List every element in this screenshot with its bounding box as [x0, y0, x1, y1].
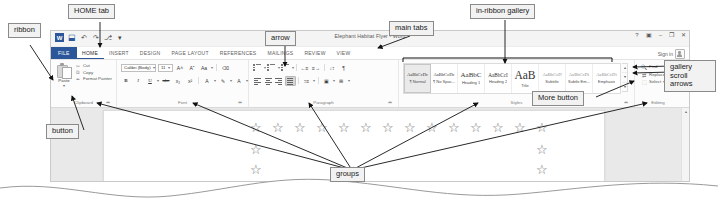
increase-indent-button[interactable]: ≡→ — [311, 64, 321, 72]
format-painter-button[interactable]: ✒ Format Painter — [75, 77, 112, 82]
star-icon: ☆ — [272, 121, 284, 134]
style-name: Subtle Em... — [568, 79, 590, 84]
tab-view[interactable]: VIEW — [331, 47, 356, 59]
copy-button[interactable]: ⧉ Copy — [75, 70, 112, 75]
group-styles: AaBbCcDc ¶ Normal AaBbCcDc ¶ No Spac... … — [399, 60, 635, 107]
chevron-down-icon[interactable]: ▾ — [168, 65, 170, 70]
styles-gallery[interactable]: AaBbCcDc ¶ Normal AaBbCcDc ¶ No Spac... … — [403, 63, 621, 94]
sort-button[interactable]: ↓↕ — [327, 64, 337, 72]
paste-button[interactable]: Paste ▾ — [55, 62, 73, 88]
callout-button: button — [46, 124, 79, 139]
change-case-button[interactable]: Aa — [199, 64, 209, 72]
style-item-normal[interactable]: AaBbCcDc ¶ Normal — [404, 64, 431, 93]
style-item-subtitle[interactable]: AaBbCcD Subtitle — [539, 64, 566, 93]
close-button[interactable]: ✕ — [681, 32, 686, 38]
chevron-down-icon[interactable]: ▾ — [153, 65, 155, 70]
help-button[interactable]: ? — [635, 32, 638, 38]
chevron-down-icon[interactable]: ▾ — [211, 66, 213, 70]
decrease-indent-button[interactable]: ←≡ — [300, 64, 310, 72]
font-name-combobox[interactable]: Calibri (Body) ▾ — [121, 64, 156, 72]
document-scrollbar[interactable]: ▴ ▾ — [681, 108, 689, 182]
ribbon-display-options-button[interactable]: ▣ — [646, 32, 652, 38]
find-button[interactable]: 🔍 Find — [641, 65, 665, 70]
window-controls[interactable]: ? ▣ – ❐ ✕ — [635, 32, 686, 38]
tab-insert[interactable]: INSERT — [104, 47, 135, 59]
tab-design[interactable]: DESIGN — [134, 47, 166, 59]
tab-mailings[interactable]: MAILINGS — [262, 47, 299, 59]
copy-icon: ⧉ — [75, 70, 81, 75]
paragraph-label-text: Paragraph — [313, 100, 334, 105]
tab-review[interactable]: REVIEW — [299, 47, 331, 59]
multilevel-list-button[interactable] — [281, 64, 290, 72]
borders-button[interactable]: ⊞ — [336, 77, 346, 85]
scroll-down-icon[interactable]: ▾ — [682, 178, 689, 182]
gallery-more-button[interactable]: ▾ — [622, 83, 627, 91]
text-highlight-color-button[interactable]: ✎ — [218, 77, 228, 85]
group-font: Calibri (Body) ▾ 11 ▾ A˄ Aˇ Aa ▾ ⌫ — [117, 60, 249, 107]
chevron-down-icon[interactable]: ▾ — [230, 79, 232, 83]
superscript-button[interactable]: x² — [185, 77, 195, 85]
styles-dialog-launcher-icon[interactable]: ⬌ — [624, 100, 628, 105]
tab-references[interactable]: REFERENCES — [214, 47, 262, 59]
document-area[interactable]: ☆ ☆ ☆ ☆ ☆ ☆ ☆ ☆ ☆ ☆ ☆ ☆ ☆ ☆ ☆ ☆ ☆ — [51, 108, 689, 182]
align-left-button[interactable] — [253, 77, 262, 85]
star-icon: ☆ — [470, 121, 482, 134]
gallery-scroll-down-button[interactable]: ▾ — [622, 73, 627, 82]
subscript-button[interactable]: x₂ — [173, 77, 183, 85]
gallery-scroll-arrows[interactable]: ▴ ▾ ▾ — [622, 63, 628, 92]
chevron-down-icon[interactable]: ▾ — [264, 66, 266, 70]
style-item-subtle-emphasis[interactable]: AaBbCcDi Subtle Em... — [566, 64, 593, 93]
grow-font-button[interactable]: A˄ — [175, 64, 185, 72]
style-item-no-spacing[interactable]: AaBbCcDc ¶ No Spac... — [431, 64, 458, 93]
bold-button[interactable]: B — [121, 77, 131, 85]
shading-button[interactable]: ▣ — [321, 77, 331, 85]
cut-button[interactable]: ✂ Cut — [75, 64, 112, 69]
chevron-down-icon[interactable]: ▾ — [63, 83, 65, 88]
tab-page-layout[interactable]: PAGE LAYOUT — [166, 47, 214, 59]
chevron-down-icon[interactable]: ▾ — [214, 79, 216, 83]
style-preview: AaBbCcD — [542, 73, 561, 78]
restore-button[interactable]: ❐ — [669, 32, 674, 38]
paragraph-dialog-launcher-icon[interactable]: ⬌ — [388, 100, 392, 105]
chevron-down-icon[interactable]: ▾ — [348, 79, 350, 83]
account-avatar-icon[interactable] — [675, 49, 685, 59]
bullets-button[interactable] — [253, 64, 262, 72]
strikethrough-button[interactable]: abc — [161, 77, 171, 85]
chevron-down-icon[interactable]: ▾ — [313, 79, 315, 83]
style-item-heading-1[interactable]: AaBbC Heading 1 — [458, 64, 485, 93]
clipboard-dialog-launcher-icon[interactable]: ⬌ — [106, 100, 110, 105]
tab-home[interactable]: HOME — [77, 47, 104, 59]
chevron-down-icon[interactable]: ▾ — [278, 66, 280, 70]
font-size-combobox[interactable]: 11 ▾ — [158, 64, 173, 72]
gallery-scroll-up-button[interactable]: ▴ — [622, 64, 627, 73]
chevron-down-icon[interactable]: ▾ — [157, 79, 159, 83]
center-button[interactable] — [264, 77, 273, 85]
ribbon-tabs[interactable]: FILE HOME INSERT DESIGN PAGE LAYOUT REFE… — [51, 47, 689, 60]
line-spacing-button[interactable]: ↕≡ — [302, 77, 312, 85]
scroll-up-icon[interactable]: ▴ — [682, 108, 689, 115]
clear-formatting-button[interactable]: ⌫ — [220, 64, 230, 72]
text-effects-button[interactable]: A — [202, 77, 212, 85]
style-item-title[interactable]: AaB Title — [512, 64, 539, 93]
style-preview: AaBbC — [461, 72, 482, 79]
style-item-heading-2[interactable]: AaBbCcI Heading 2 — [485, 64, 512, 93]
chevron-down-icon[interactable]: ▾ — [292, 66, 294, 70]
minimize-button[interactable]: – — [659, 32, 662, 38]
font-dialog-launcher-icon[interactable]: ⬌ — [238, 100, 242, 105]
font-color-button[interactable]: A — [234, 77, 244, 85]
font-size-value: 11 — [161, 65, 166, 70]
style-item-emphasis[interactable]: AaBbCcDi Emphasis — [593, 64, 620, 93]
numbering-button[interactable] — [267, 64, 276, 72]
show-formatting-marks-button[interactable]: ¶ — [339, 64, 349, 72]
align-right-button[interactable] — [274, 77, 283, 85]
shrink-font-button[interactable]: Aˇ — [187, 64, 197, 72]
chevron-down-icon[interactable]: ▾ — [246, 79, 248, 83]
replace-button[interactable]: ⇄ Replace — [641, 73, 665, 78]
chevron-down-icon[interactable]: ▾ — [333, 79, 335, 83]
justify-button[interactable] — [285, 76, 296, 86]
sign-in-control[interactable]: Sign in — [658, 49, 685, 59]
underline-button[interactable]: U — [145, 77, 155, 85]
select-button[interactable]: ⬚ Select ▾ — [641, 80, 665, 85]
italic-button[interactable]: I — [133, 77, 143, 85]
tab-file[interactable]: FILE — [51, 47, 77, 59]
